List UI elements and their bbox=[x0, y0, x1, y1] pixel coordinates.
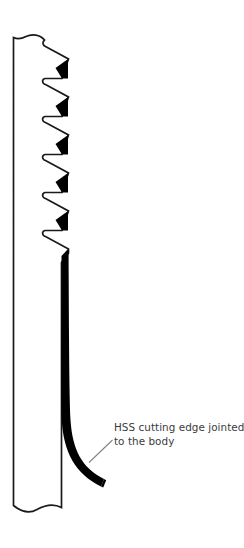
annotation-label-line-1: HSS cutting edge jointed bbox=[114, 421, 240, 435]
annotation-label-line-2: to the body bbox=[114, 435, 240, 449]
saw-blade-drawing bbox=[0, 0, 244, 548]
annotation-leader-line bbox=[89, 440, 113, 463]
figure-root: HSS cutting edge jointed to the body bbox=[0, 0, 244, 548]
annotation-label: HSS cutting edge jointed to the body bbox=[114, 421, 240, 448]
tooth-hook-fills bbox=[56, 59, 69, 263]
hss-cutting-edge bbox=[61, 250, 104, 487]
